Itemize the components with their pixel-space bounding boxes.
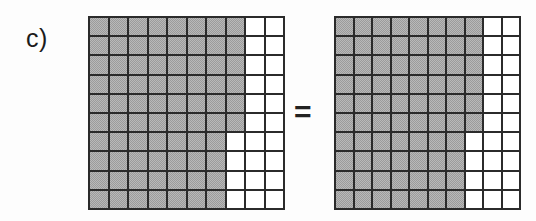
panel-label: c) — [26, 26, 48, 51]
grid-cell — [429, 76, 446, 93]
grid-cell — [110, 56, 128, 73]
grid-cell — [466, 18, 483, 35]
grid-cell — [355, 76, 372, 93]
grid-cell — [429, 114, 446, 131]
grid-cell — [392, 76, 409, 93]
grid-cell — [447, 133, 464, 150]
grid-cell — [246, 114, 264, 131]
grid-cell — [447, 37, 464, 54]
grid-cell — [129, 133, 147, 150]
grid-cell — [484, 18, 501, 35]
grid-cell — [355, 95, 372, 112]
grid-cell — [246, 18, 264, 35]
grid-cell — [129, 76, 147, 93]
grid-cell — [90, 76, 108, 93]
grid-cell — [227, 56, 245, 73]
grid-cell — [266, 191, 284, 208]
grid-cell — [484, 133, 501, 150]
grid-cell — [168, 172, 186, 189]
grid-cell — [484, 114, 501, 131]
grid-cell — [168, 133, 186, 150]
grid-cell — [227, 152, 245, 169]
grid-cell — [188, 95, 206, 112]
grid-cell — [336, 56, 353, 73]
grid-cell — [392, 152, 409, 169]
grid-cell — [392, 95, 409, 112]
grid-cell — [355, 18, 372, 35]
grid-cell — [90, 152, 108, 169]
grid-cell — [410, 76, 427, 93]
grid-cell — [336, 114, 353, 131]
grid-cell — [149, 172, 167, 189]
grid-cell — [503, 37, 520, 54]
grid-cell — [429, 37, 446, 54]
grid-cell — [168, 18, 186, 35]
grid-cell — [129, 18, 147, 35]
grid-cell — [503, 133, 520, 150]
grid-cell — [207, 114, 225, 131]
grid-cell — [410, 95, 427, 112]
grid-cell — [447, 95, 464, 112]
grid-cell — [227, 37, 245, 54]
grid-cell — [168, 191, 186, 208]
grid-cell — [392, 191, 409, 208]
grid-cell — [429, 133, 446, 150]
grid-cell — [336, 133, 353, 150]
grid-cell — [188, 76, 206, 93]
grid-cell — [355, 133, 372, 150]
grid-cell — [246, 56, 264, 73]
grid-cell — [168, 56, 186, 73]
grid-cell — [336, 18, 353, 35]
grid-cell — [484, 172, 501, 189]
grid-cell — [207, 76, 225, 93]
grid-cell — [373, 95, 390, 112]
grid-cell — [466, 152, 483, 169]
grid-cell — [447, 172, 464, 189]
grid-cell — [129, 172, 147, 189]
grid-cell — [149, 95, 167, 112]
grid-cell — [266, 95, 284, 112]
grid-cell — [503, 76, 520, 93]
grid-cell — [90, 114, 108, 131]
grid-cell — [429, 18, 446, 35]
grid-cell — [355, 114, 372, 131]
grid-cell — [410, 133, 427, 150]
grid-cell — [110, 114, 128, 131]
grid-cell — [168, 95, 186, 112]
grid-cell — [355, 56, 372, 73]
grid-cell — [90, 56, 108, 73]
grid-cell — [429, 95, 446, 112]
grid-cell — [129, 114, 147, 131]
grid-cell — [188, 37, 206, 54]
grid-cell — [149, 56, 167, 73]
grid-cell — [227, 114, 245, 131]
grid-cell — [90, 18, 108, 35]
grid-cell — [484, 191, 501, 208]
grid-cell — [207, 152, 225, 169]
grid-cell — [410, 114, 427, 131]
grid-cell — [207, 56, 225, 73]
grid-cell — [110, 172, 128, 189]
grid-cell — [447, 152, 464, 169]
grid-cell — [188, 172, 206, 189]
grid-cell — [227, 76, 245, 93]
grid-cell — [392, 172, 409, 189]
grid-cell — [484, 152, 501, 169]
grid-cell — [373, 56, 390, 73]
grid-cell — [266, 114, 284, 131]
grid-cell — [373, 76, 390, 93]
grid-cell — [149, 18, 167, 35]
grid-cell — [110, 37, 128, 54]
grid-cell — [266, 172, 284, 189]
grid-cell — [410, 172, 427, 189]
grid-cell — [429, 172, 446, 189]
grid-cell — [466, 76, 483, 93]
grid-cell — [503, 191, 520, 208]
grid-cell — [392, 37, 409, 54]
grid-cell — [503, 172, 520, 189]
grid-cell — [336, 37, 353, 54]
grid-cell — [207, 133, 225, 150]
grid-cell — [466, 172, 483, 189]
grid-cell — [188, 191, 206, 208]
grid-cell — [90, 172, 108, 189]
